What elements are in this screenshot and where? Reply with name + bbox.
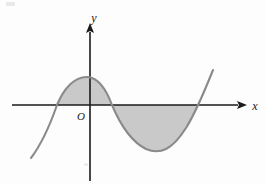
graph-svg: y x O [0, 0, 266, 185]
shaded-region-below-axis [31, 70, 213, 158]
origin-label: O [77, 110, 85, 122]
x-axis-label: x [251, 99, 258, 113]
y-axis-label: y [90, 11, 97, 25]
figure-container: y x O [0, 0, 266, 185]
